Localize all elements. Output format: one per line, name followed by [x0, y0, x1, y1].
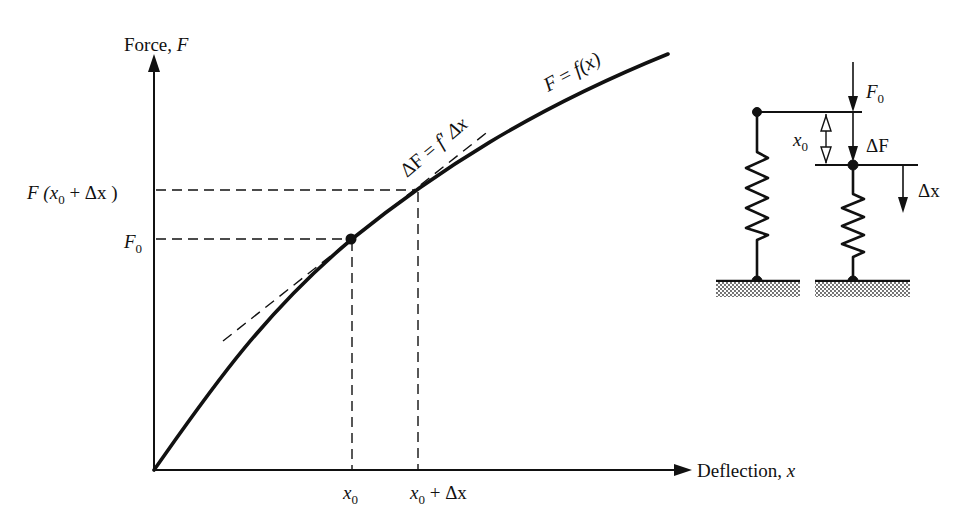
x-tick-label-x0: x0: [342, 482, 358, 507]
dx-arrow-icon: [898, 197, 908, 213]
x-tick-label-x0-plus-dx: x0 + Δx: [409, 482, 467, 507]
tangent-label: ΔF = f′ Δx: [395, 112, 472, 182]
dF-label: ΔF: [866, 135, 889, 156]
x0-down-arrow-icon: [821, 147, 831, 162]
spring-coil-deflected-icon: [842, 165, 864, 281]
y-tick-label-F0: F0: [123, 231, 142, 256]
y-axis-arrow-icon: [148, 54, 160, 72]
axes: [148, 54, 692, 476]
y-tick-label-F-x0-plus-dx: F (x0 + Δx ): [26, 182, 118, 207]
curve-F-of-x: [154, 54, 668, 470]
dx-label: Δx: [918, 180, 940, 201]
x-axis-arrow-icon: [674, 464, 692, 476]
F0-label: F0: [865, 81, 884, 106]
curve-label: F = f(x): [539, 47, 605, 97]
ground-hatch-initial: [716, 282, 800, 297]
force-deflection-figure: Force, F Deflection, x F = f(x) ΔF = f′ …: [0, 0, 966, 529]
spring-coil-initial-icon: [746, 112, 768, 281]
spring-initial: [716, 108, 862, 298]
spring-diagram: [716, 62, 918, 297]
F0-arrow-icon: [848, 96, 858, 112]
x0-up-arrow-icon: [821, 116, 831, 131]
x-axis-title: Deflection, x: [697, 460, 796, 481]
operating-point-marker: [346, 234, 357, 245]
ground-hatch-deflected: [815, 282, 910, 297]
guide-lines: [156, 190, 418, 470]
x0-label: x0: [792, 129, 808, 154]
dF-arrow-icon: [848, 146, 858, 162]
y-axis-title: Force, F: [124, 34, 189, 55]
